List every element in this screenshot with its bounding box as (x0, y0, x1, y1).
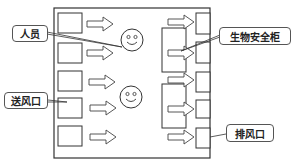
exhaust-airflow-arrows (168, 15, 194, 144)
biosafety-cabinet-label: 生物安全柜 (219, 27, 291, 45)
person-icon (120, 86, 142, 108)
supply-vent (58, 126, 82, 146)
supply-vents (58, 13, 82, 146)
exhaust-vents (196, 13, 210, 148)
airflow-arrow-icon (89, 75, 115, 89)
exhaust-vent (196, 72, 210, 92)
personnel-label: 人员 (12, 25, 48, 42)
supply-airflow-arrows (87, 17, 116, 144)
airflow-arrow-icon (90, 101, 116, 115)
exhaust-vent (196, 100, 210, 118)
supply-vent-label: 送风口 (4, 92, 48, 109)
exhaust-vent-label: 排风口 (226, 124, 274, 142)
airflow-arrow-icon (90, 130, 116, 144)
airflow-arrow-icon (168, 102, 194, 116)
airflow-arrow-icon (87, 46, 113, 60)
exhaust-vent (196, 128, 210, 148)
supply-vent (58, 43, 82, 63)
supply-vent (58, 71, 82, 91)
exhaust-vent (196, 13, 210, 34)
supply-vent (58, 13, 82, 33)
supply-vent (58, 98, 82, 118)
airflow-arrow-icon (168, 130, 194, 144)
airflow-arrow-icon (168, 73, 194, 87)
person-icon (121, 29, 143, 51)
airflow-arrow-icon (87, 17, 113, 31)
airflow-arrow-icon (168, 15, 194, 29)
